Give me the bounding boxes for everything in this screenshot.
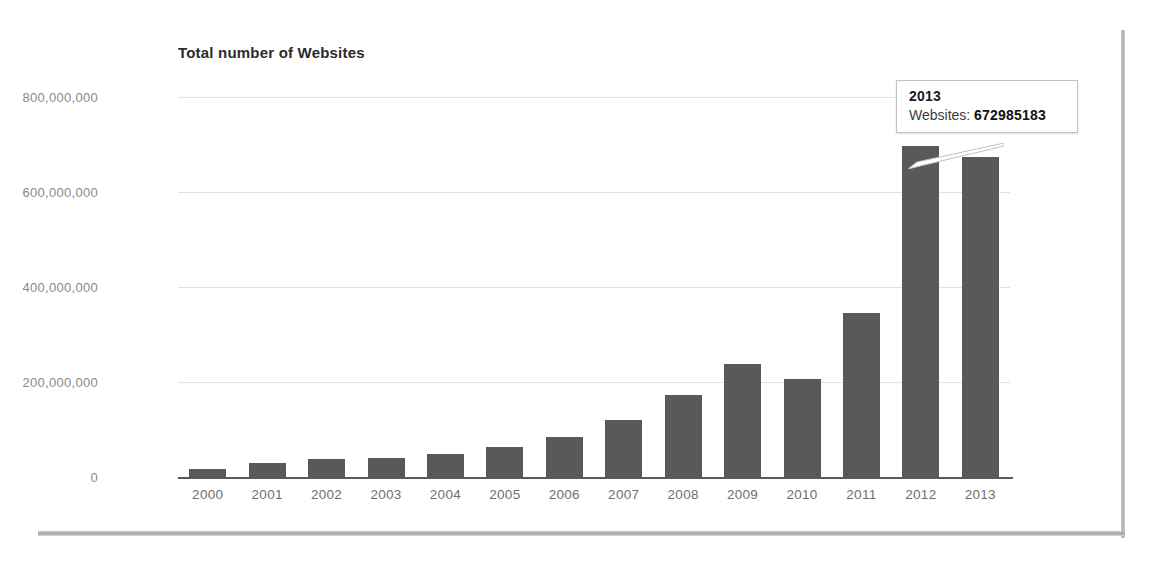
x-axis-tick-label: 2009 bbox=[727, 487, 758, 502]
bar[interactable] bbox=[665, 395, 702, 477]
bar[interactable] bbox=[427, 454, 464, 477]
bar[interactable] bbox=[308, 459, 345, 477]
x-axis-tick-label: 2007 bbox=[608, 487, 639, 502]
y-axis-tick-label: 600,000,000 bbox=[22, 185, 98, 200]
bar[interactable] bbox=[843, 313, 880, 477]
tooltip-value: 672985183 bbox=[974, 107, 1046, 123]
bar[interactable] bbox=[368, 458, 405, 477]
x-axis-tick-label: 2013 bbox=[965, 487, 996, 502]
chart-title: Total number of Websites bbox=[178, 44, 365, 61]
data-tooltip: 2013 Websites: 672985183 bbox=[896, 80, 1078, 133]
x-axis-tick-label: 2011 bbox=[846, 487, 876, 502]
bar-chart: Total number of Websites s 2013 Websites… bbox=[0, 0, 1120, 530]
x-axis-line bbox=[178, 477, 1013, 479]
plot-area bbox=[178, 97, 1010, 477]
y-axis-tick-label: 0 bbox=[90, 470, 98, 485]
bar[interactable] bbox=[784, 379, 821, 477]
tooltip-title: 2013 bbox=[909, 88, 1067, 104]
x-axis-tick-label: 2006 bbox=[549, 487, 580, 502]
y-axis-tick-label: 200,000,000 bbox=[22, 375, 98, 390]
x-axis-tick-label: 2010 bbox=[786, 487, 817, 502]
x-axis-tick-label: 2003 bbox=[370, 487, 401, 502]
x-axis-tick-label: 2004 bbox=[430, 487, 461, 502]
x-axis-tick-label: 2001 bbox=[252, 487, 283, 502]
tooltip-label: Websites: bbox=[909, 107, 970, 123]
bar[interactable] bbox=[962, 157, 999, 477]
bar[interactable] bbox=[724, 364, 761, 477]
bar[interactable] bbox=[486, 447, 523, 477]
bar[interactable] bbox=[249, 463, 286, 477]
page-edge-right bbox=[1121, 30, 1125, 538]
bar[interactable] bbox=[546, 437, 583, 477]
bar[interactable] bbox=[902, 146, 939, 477]
page-edge-bottom bbox=[38, 531, 1125, 536]
tooltip-pointer bbox=[908, 143, 1004, 169]
tooltip-row: Websites: 672985183 bbox=[909, 107, 1067, 123]
y-axis-tick-label: 400,000,000 bbox=[22, 280, 98, 295]
bar[interactable] bbox=[605, 420, 642, 477]
x-axis-tick-label: 2008 bbox=[668, 487, 699, 502]
x-axis-tick-label: 2002 bbox=[311, 487, 342, 502]
x-axis-tick-label: 2005 bbox=[489, 487, 520, 502]
x-axis-tick-label: 2000 bbox=[192, 487, 223, 502]
bar[interactable] bbox=[189, 469, 226, 477]
x-axis-tick-label: 2012 bbox=[905, 487, 936, 502]
gridline bbox=[178, 192, 1010, 193]
gridline bbox=[178, 287, 1010, 288]
gridline bbox=[178, 382, 1010, 383]
gridline bbox=[178, 97, 1010, 98]
y-axis-tick-label: 800,000,000 bbox=[22, 90, 98, 105]
